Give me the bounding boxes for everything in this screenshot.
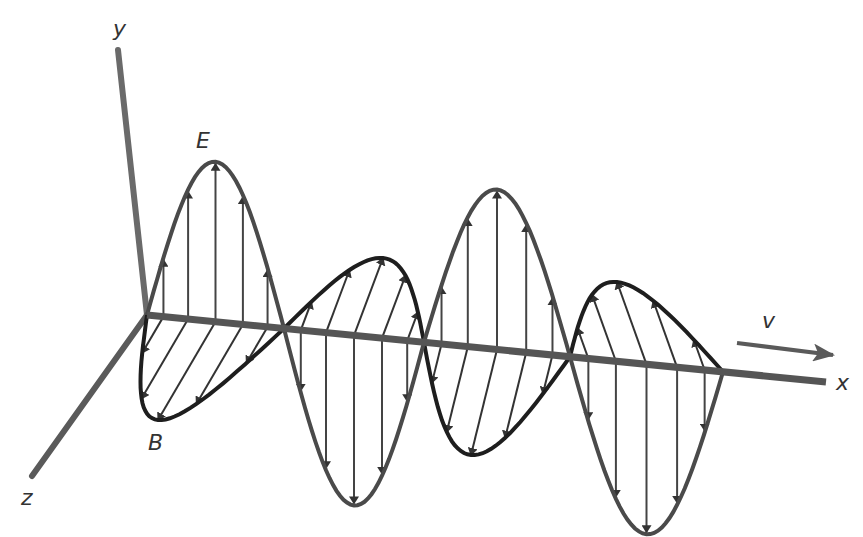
b-field-arrows <box>142 258 705 455</box>
b-field-vector <box>447 347 468 432</box>
b-wave-curve <box>141 258 724 455</box>
magnetic-field-label: B <box>148 432 163 454</box>
b-field-vector <box>432 344 442 383</box>
b-field-vector <box>196 324 243 403</box>
e-field-arrows <box>163 164 704 533</box>
e-wave-curve <box>147 162 723 535</box>
b-field-vector <box>382 276 405 339</box>
velocity-arrow-icon <box>737 343 833 355</box>
velocity-label: v <box>762 310 775 332</box>
b-field-vector <box>158 322 216 420</box>
b-field-vector <box>471 350 497 455</box>
z-axis <box>32 315 147 476</box>
x-axis-label: x <box>836 372 849 394</box>
x-axis <box>147 315 826 382</box>
em-wave-diagram <box>0 0 863 537</box>
b-field-vector <box>592 295 616 362</box>
y-axis <box>118 50 147 315</box>
b-field-vector <box>578 328 589 358</box>
b-field-vector <box>354 258 383 335</box>
y-axis-label: y <box>113 18 126 40</box>
electric-field-label: E <box>196 130 210 152</box>
b-field-vector <box>407 312 418 341</box>
z-axis-label: z <box>21 487 33 509</box>
b-field-vector <box>142 319 189 398</box>
